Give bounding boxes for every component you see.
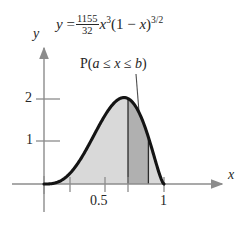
probability-density-figure: y =115532x3(1 − x)3/2 y x P(a ≤ x ≤ b) 2… <box>0 0 249 236</box>
plot-area <box>0 0 249 236</box>
